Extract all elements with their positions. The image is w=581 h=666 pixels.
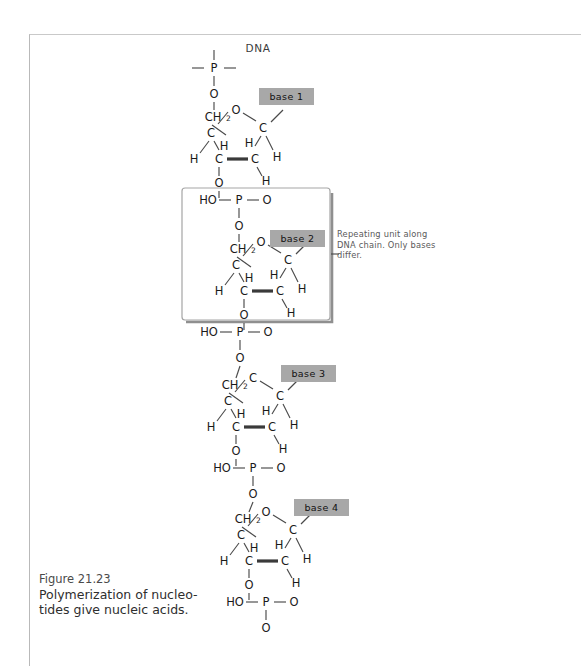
atom-H: H — [298, 282, 307, 296]
diagram-title: DNA — [246, 42, 271, 54]
atom-C2: C — [276, 284, 284, 298]
atom-P: P — [263, 595, 270, 609]
atom-H: H — [279, 442, 288, 456]
atom-C4: C — [237, 528, 245, 542]
atom-CH2: CH — [235, 512, 252, 526]
ring-apex-O: O — [261, 505, 270, 519]
atom-H: H — [290, 418, 299, 432]
atom-CH2: CH — [205, 110, 222, 124]
atom-O: O — [261, 621, 270, 635]
atom-HO: HO — [200, 325, 218, 339]
ring-apex-C: C — [249, 371, 257, 385]
atom-H: H — [275, 538, 284, 552]
atom-C3: C — [240, 284, 248, 298]
repeating-unit-box — [182, 188, 339, 322]
base-2-label: base 2 — [280, 233, 314, 244]
atom-CH2-subscript: 2 — [226, 114, 231, 123]
figure-number: Figure 21.23 — [39, 572, 219, 587]
atom-HO: HO — [213, 461, 231, 475]
atom-C1: C — [276, 389, 284, 403]
atom-O: O — [263, 325, 272, 339]
atom-H: H — [262, 174, 271, 188]
atom-O: O — [231, 444, 240, 458]
atom-C2: C — [251, 152, 259, 166]
atom-O: O — [209, 87, 218, 101]
atom-H: H — [215, 284, 224, 298]
atom-H: H — [220, 554, 229, 568]
atom-O: O — [262, 193, 271, 207]
atom-CH2: CH — [222, 378, 239, 392]
atom-C4: C — [207, 126, 215, 140]
atom-O: O — [276, 461, 285, 475]
dna-polymer-structure-diagram: .bond{stroke:#4a4a4a;stroke-width:1.15;f… — [0, 0, 581, 666]
top-phosphate-group: P O — [192, 50, 236, 110]
atom-C3: C — [245, 554, 253, 568]
atom-C1: C — [284, 253, 292, 267]
atom-H: H — [245, 271, 254, 285]
atom-HO: HO — [199, 193, 217, 207]
atom-O: O — [248, 487, 257, 501]
sugar-ring-2: CH 2 O C C H H H H C C H O — [215, 230, 325, 330]
figure-caption-text: Polymerization of nucleo-tides give nucl… — [39, 587, 219, 617]
atom-O: O — [235, 351, 244, 365]
atom-CH2-subscript: 2 — [243, 382, 248, 391]
ring-apex-O: O — [231, 103, 240, 117]
sugar-ring-3: CH 2 C C C H H H H C C H O — [207, 365, 336, 466]
atom-P: P — [237, 325, 244, 339]
atom-H: H — [250, 541, 259, 555]
atom-P: P — [211, 61, 218, 75]
sugar-ring-1: CH 2 O C C H H H H C C H O — [190, 88, 314, 198]
atom-O: O — [234, 219, 243, 233]
atom-H: H — [303, 552, 312, 566]
atom-H: H — [292, 576, 301, 590]
atom-H: H — [262, 404, 271, 418]
atom-C4: C — [232, 258, 240, 272]
atom-C2: C — [268, 420, 276, 434]
atom-C4: C — [224, 394, 232, 408]
sugar-ring-4: CH 2 O C C H H H H C C H O — [220, 499, 349, 600]
atom-O: O — [289, 595, 298, 609]
ring-apex-O: O — [256, 235, 265, 249]
base-4-label: base 4 — [304, 502, 338, 513]
atom-P: P — [236, 193, 243, 207]
atom-O: O — [244, 578, 253, 592]
atom-H: H — [190, 152, 199, 166]
atom-H: H — [287, 306, 296, 320]
atom-CH2-subscript: 2 — [256, 516, 261, 525]
atom-CH2-subscript: 2 — [251, 246, 256, 255]
atom-C3: C — [232, 420, 240, 434]
base-1-label: base 1 — [269, 91, 303, 102]
phosphate-group-3: HO P O O — [200, 325, 272, 379]
atom-H: H — [270, 268, 279, 282]
atom-H: H — [237, 407, 246, 421]
base-3-label: base 3 — [291, 368, 325, 379]
atom-C3: C — [215, 152, 223, 166]
atom-H: H — [245, 136, 254, 150]
atom-C1: C — [289, 523, 297, 537]
phosphate-group-4: HO P O O — [213, 461, 285, 513]
atom-H: H — [207, 420, 216, 434]
repeating-unit-annotation: Repeating unit along DNA chain. Only bas… — [337, 229, 442, 261]
figure-caption-block: Figure 21.23 Polymerization of nucleo-ti… — [39, 572, 219, 617]
atom-HO: HO — [226, 595, 244, 609]
atom-O: O — [239, 308, 248, 322]
terminal-phosphate-group: HO P O O — [226, 595, 298, 635]
figure-page: .bond{stroke:#4a4a4a;stroke-width:1.15;f… — [0, 0, 581, 666]
atom-H: H — [220, 139, 229, 153]
atom-C1: C — [259, 121, 267, 135]
atom-C2: C — [281, 554, 289, 568]
atom-H: H — [273, 150, 282, 164]
atom-CH2: CH — [230, 242, 247, 256]
atom-P: P — [250, 461, 257, 475]
